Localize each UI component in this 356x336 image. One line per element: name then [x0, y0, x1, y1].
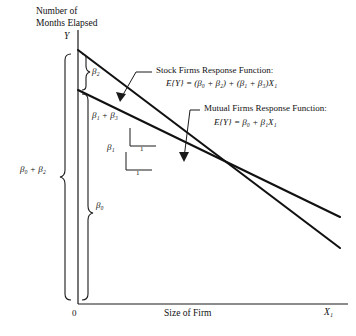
label-beta0-plus-beta2: β₀ + β₂ [20, 164, 46, 174]
regression-response-function-figure: Number of Months Elapsed Y 0 Size of Fir… [0, 0, 356, 336]
y-axis-title-line2: Months Elapsed [36, 18, 97, 29]
stock-callout-title: Stock Firms Response Function: [156, 65, 273, 75]
label-slope-mutual-run: 1 [136, 170, 140, 178]
y-axis-title-line1: Number of [36, 6, 77, 17]
mutual-callout-equation: E{Y} = β₀ + β₁X₁ [214, 117, 277, 127]
label-slope-mutual: β₁ [107, 142, 115, 152]
x-axis-label: Size of Firm [164, 308, 212, 319]
mutual-callout-leader [184, 110, 200, 158]
y-axis-symbol: Y [64, 31, 69, 42]
stock-callout-equation: E{Y} = (β₀ + β₂) + (β₁ + β₃)X₁ [166, 78, 277, 88]
mutual-callout-arrowhead [179, 152, 189, 162]
slope-triangle-mutual [126, 152, 152, 170]
stock-callout-arrowhead [116, 92, 126, 102]
bracket-beta0-plus-beta2 [60, 54, 71, 300]
label-beta0: β₀ [96, 200, 104, 210]
label-beta2: β₂ [92, 66, 100, 76]
origin-label: 0 [72, 308, 77, 318]
mutual-callout-title: Mutual Firms Response Function: [204, 103, 327, 113]
chart-canvas [0, 0, 356, 336]
label-slope-stock-run: 1 [140, 146, 144, 154]
x-axis-symbol: X₁ [324, 307, 333, 318]
label-slope-stock: β₁ + β₃ [92, 110, 118, 120]
slope-triangle-stock [130, 128, 156, 146]
bracket-beta0 [82, 94, 93, 300]
